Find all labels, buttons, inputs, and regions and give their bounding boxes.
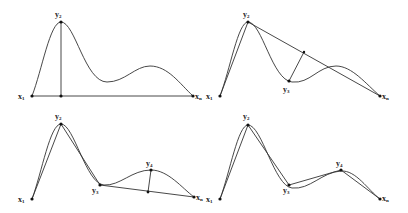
label-y2: y2 — [243, 10, 250, 19]
panel-2: x1 y2 y3 xn — [206, 10, 389, 101]
point-y3 — [287, 79, 290, 82]
max-distance-line — [289, 52, 304, 81]
label-x1: x1 — [18, 92, 25, 101]
label-y2: y2 — [55, 112, 62, 121]
point-y3 — [287, 183, 290, 186]
original-curve — [32, 22, 193, 96]
point-foot — [303, 51, 305, 53]
douglas-peucker-diagram: x1 y2 xn x1 y2 y3 xn x1 y2 y3 y4 — [0, 0, 408, 213]
point-y2 — [59, 122, 62, 125]
label-y4: y4 — [146, 159, 153, 168]
point-y2 — [59, 20, 62, 23]
point-y4 — [339, 168, 342, 171]
label-y3: y3 — [283, 85, 290, 94]
max-distance-line — [148, 170, 151, 192]
panel-1: x1 y2 xn — [18, 10, 202, 101]
label-x1: x1 — [206, 195, 213, 204]
label-xn: xn — [382, 194, 389, 203]
label-y2: y2 — [243, 112, 250, 121]
point-foot — [59, 94, 62, 97]
segment-x1-y2 — [32, 124, 61, 199]
panel-4: x1 y2 y3 y4 xn — [206, 112, 389, 204]
segment-y2-y3 — [61, 124, 100, 185]
label-xn: xn — [382, 92, 389, 101]
point-foot — [147, 191, 150, 194]
point-y3 — [98, 183, 101, 186]
label-x1: x1 — [18, 195, 25, 204]
panel-3: x1 y2 y3 y4 xn — [18, 112, 203, 204]
point-y2 — [246, 20, 249, 23]
point-y2 — [246, 123, 249, 126]
point-x1 — [30, 197, 33, 200]
baseline-y3-xn — [100, 185, 194, 197]
label-y3: y3 — [92, 186, 99, 195]
label-x1: x1 — [206, 92, 213, 101]
point-x1 — [218, 197, 221, 200]
point-x1 — [218, 94, 221, 97]
point-x1 — [30, 94, 33, 97]
baseline-y2-xn — [248, 22, 380, 96]
label-y4: y4 — [336, 159, 343, 168]
label-y2: y2 — [55, 10, 62, 19]
label-xn: xn — [195, 92, 202, 101]
label-xn: xn — [196, 193, 203, 202]
point-y4 — [149, 168, 152, 171]
